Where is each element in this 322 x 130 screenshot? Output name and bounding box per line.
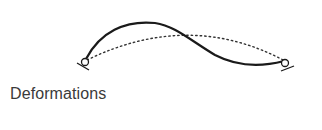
original-shape-dotted-arc [87,35,285,61]
right-support-icon [281,60,294,72]
deformed-shape-curve [86,23,284,65]
figure-caption: Deformations [10,85,106,103]
left-support-icon [77,59,89,71]
deformation-diagram [0,0,322,130]
